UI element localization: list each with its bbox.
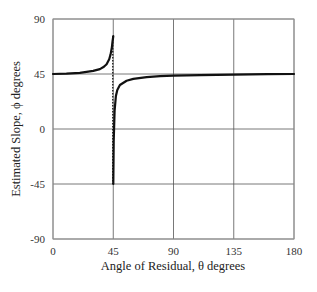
y-axis-tick-labels: 90450-45-90 bbox=[30, 13, 45, 245]
y-tick-label: 90 bbox=[34, 13, 46, 25]
x-tick-label: 90 bbox=[168, 245, 180, 257]
x-axis-tick-labels: 04590135180 bbox=[50, 245, 303, 257]
y-axis-label: Estimated Slope, ϕ degrees bbox=[9, 61, 23, 197]
series-line-0 bbox=[53, 36, 113, 74]
x-tick-label: 0 bbox=[50, 245, 56, 257]
x-tick-label: 45 bbox=[108, 245, 120, 257]
y-tick-label: -45 bbox=[30, 178, 45, 190]
y-tick-label: 45 bbox=[34, 68, 46, 80]
y-tick-label: 0 bbox=[40, 123, 46, 135]
x-axis-label: Angle of Residual, θ degrees bbox=[101, 259, 246, 273]
slope-vs-residual-chart: 90450-45-90 04590135180 Angle of Residua… bbox=[0, 0, 317, 292]
x-tick-label: 135 bbox=[226, 245, 243, 257]
grid-lines bbox=[53, 19, 294, 239]
x-tick-label: 180 bbox=[286, 245, 303, 257]
y-tick-label: -90 bbox=[30, 233, 45, 245]
